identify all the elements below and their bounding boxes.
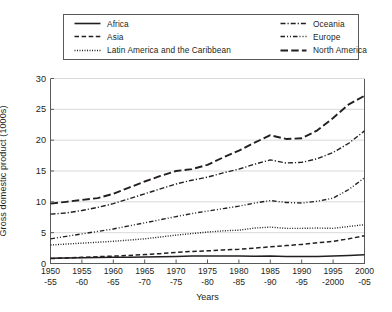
y-tick-label: 15 (2, 166, 46, 176)
legend-item: Latin America and the Caribbean (64, 46, 270, 54)
series-line-europe (51, 178, 365, 239)
x-tick-line-2: -05 (344, 277, 386, 288)
legend-line-icon (280, 33, 307, 40)
legend-line-icon (280, 47, 307, 54)
legend-item: Asia (64, 33, 270, 41)
legend-item: North America (270, 46, 367, 54)
legend-label: Latin America and the Caribbean (107, 46, 231, 54)
y-tick-label: 20 (2, 135, 46, 145)
legend-line-icon (280, 20, 307, 27)
series-line-north-america (51, 96, 365, 204)
x-axis-title: Years (50, 292, 365, 302)
legend-item: Europe (270, 33, 367, 41)
chart-root: AfricaOceaniaAsiaEuropeLatin America and… (0, 0, 392, 312)
legend-label: North America (313, 46, 367, 54)
x-tick-label: 2000-05 (344, 266, 386, 287)
legend-item: Africa (64, 20, 270, 28)
legend-item: Oceania (270, 20, 367, 28)
y-tick-label: 25 (2, 104, 46, 114)
legend-label: Africa (107, 20, 129, 28)
series-line-asia (51, 236, 365, 259)
y-axis-ticks: 051015202530 (0, 78, 46, 264)
legend-label: Asia (107, 33, 124, 41)
chart-legend: AfricaOceaniaAsiaEuropeLatin America and… (63, 14, 359, 60)
series-line-latin-america-and-the-caribbean (51, 225, 365, 245)
series-line-africa (51, 255, 365, 258)
x-tick-line-1: 2000 (344, 266, 386, 277)
plot-area (50, 78, 365, 264)
y-tick-label: 5 (2, 228, 46, 238)
legend-line-icon (74, 33, 101, 40)
y-tick-label: 30 (2, 74, 46, 84)
legend-line-icon (74, 47, 101, 54)
legend-line-icon (74, 20, 101, 27)
y-tick-label: 10 (2, 197, 46, 207)
legend-label: Europe (313, 33, 340, 41)
x-axis-ticks: 1950-551955-601960-651965-701970-751975-… (50, 266, 365, 292)
legend-label: Oceania (313, 20, 345, 28)
